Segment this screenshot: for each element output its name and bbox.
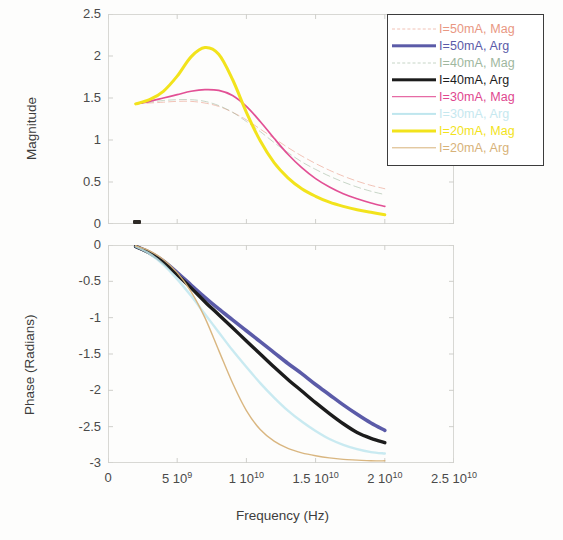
legend-line-swatch bbox=[392, 23, 436, 35]
y-tick-label: 0.5 bbox=[55, 174, 101, 189]
legend-item-label: I=30mA, Arg bbox=[439, 107, 509, 121]
legend-box: I=50mA, MagI=50mA, ArgI=40mA, MagI=40mA,… bbox=[387, 14, 544, 166]
y-tick-label: 0 bbox=[55, 237, 101, 252]
legend-item-label: I=20mA, Arg bbox=[439, 141, 509, 155]
y-tick-label: 0 bbox=[55, 216, 101, 231]
x-tick-label: 2.5 1010 bbox=[409, 470, 499, 486]
phase-series-group bbox=[136, 246, 385, 461]
magnitude-axis-title: Magnitude bbox=[24, 97, 39, 160]
legend-item: I=20mA, Mag bbox=[392, 122, 539, 139]
legend-line-swatch bbox=[392, 125, 436, 137]
y-tick-label: 1.5 bbox=[55, 90, 101, 105]
scan-artifact-mark bbox=[133, 220, 141, 224]
series-line bbox=[136, 100, 385, 195]
y-tick-label: 2 bbox=[55, 48, 101, 63]
legend-line-swatch bbox=[392, 74, 436, 86]
legend-item-label: I=50mA, Mag bbox=[439, 22, 515, 36]
legend-line-swatch bbox=[392, 40, 436, 52]
y-tick-label: -2.5 bbox=[55, 419, 101, 434]
legend-item-label: I=30mA, Mag bbox=[439, 90, 515, 104]
y-tick-label: -1 bbox=[55, 310, 101, 325]
phase-plot-panel bbox=[108, 245, 454, 463]
legend-item: I=50mA, Arg bbox=[392, 37, 539, 54]
legend-item: I=40mA, Mag bbox=[392, 54, 539, 71]
y-tick-label: 2.5 bbox=[55, 6, 101, 21]
legend-line-swatch bbox=[392, 142, 436, 154]
magnitude-series-group bbox=[136, 48, 385, 215]
legend-line-swatch bbox=[392, 91, 436, 103]
legend-line-swatch bbox=[392, 57, 436, 69]
frequency-axis-title: Frequency (Hz) bbox=[236, 508, 329, 523]
legend-item-label: I=40mA, Arg bbox=[439, 73, 509, 87]
legend-item: I=30mA, Arg bbox=[392, 105, 539, 122]
y-tick-label: -1.5 bbox=[55, 346, 101, 361]
series-line bbox=[136, 246, 385, 453]
y-tick-label: -2 bbox=[55, 382, 101, 397]
series-line bbox=[136, 101, 385, 189]
y-tick-label: -0.5 bbox=[55, 273, 101, 288]
legend-item: I=30mA, Mag bbox=[392, 88, 539, 105]
phase-plot-svg bbox=[108, 245, 454, 463]
phase-plot-frame bbox=[109, 246, 454, 463]
legend-item: I=20mA, Arg bbox=[392, 139, 539, 156]
y-tick-label: -3 bbox=[55, 455, 101, 470]
phase-tick-marks bbox=[108, 245, 454, 463]
legend-item: I=40mA, Arg bbox=[392, 71, 539, 88]
legend-line-swatch bbox=[392, 108, 436, 120]
y-tick-label: 1 bbox=[55, 132, 101, 147]
series-line bbox=[136, 90, 385, 207]
legend-item-label: I=40mA, Mag bbox=[439, 56, 515, 70]
figure-canvas: 2.521.510.50 Magnitude 0-0.5-1-1.5-2-2.5… bbox=[0, 0, 563, 540]
legend-item-label: I=20mA, Mag bbox=[439, 124, 515, 138]
legend-item: I=50mA, Mag bbox=[392, 20, 539, 37]
phase-axis-title: Phase (Radians) bbox=[22, 314, 37, 415]
legend-item-label: I=50mA, Arg bbox=[439, 39, 509, 53]
